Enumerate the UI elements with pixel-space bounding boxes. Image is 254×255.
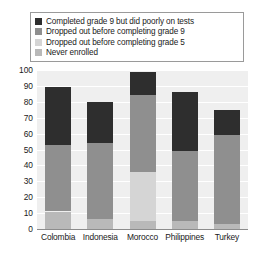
x-axis-label-colombia: Colombia xyxy=(37,233,79,242)
stacked-bar-chart: Completed grade 9 but did poorly on test… xyxy=(0,0,254,255)
bar-segment xyxy=(172,92,198,151)
legend-item[interactable]: Dropped out before completing grade 9 xyxy=(35,27,239,38)
y-axis-tick-60: 60 xyxy=(0,130,33,138)
y-axis-tick-70: 70 xyxy=(0,114,33,122)
bar-indonesia[interactable] xyxy=(87,70,113,229)
chart-legend: Completed grade 9 but did poorly on test… xyxy=(30,12,244,62)
y-axis-tick-20: 20 xyxy=(0,193,33,201)
x-axis-label-indonesia: Indonesia xyxy=(79,233,121,242)
bar-segment xyxy=(214,135,240,224)
legend-swatch-never-enrolled xyxy=(35,49,42,56)
bar-turkey[interactable] xyxy=(214,70,240,229)
bar-segment xyxy=(214,110,240,135)
x-axis-line xyxy=(37,229,248,230)
bar-segment xyxy=(130,172,156,221)
y-axis-tick-90: 90 xyxy=(0,82,33,90)
bar-segment xyxy=(172,221,198,229)
bar-segment xyxy=(45,212,71,229)
legend-item[interactable]: Completed grade 9 but did poorly on test… xyxy=(35,16,239,27)
y-axis-tick-100: 100 xyxy=(0,66,33,74)
bar-segment xyxy=(130,221,156,229)
x-axis-category-labels: ColombiaIndonesiaMoroccoPhilippinesTurke… xyxy=(37,233,248,249)
bar-segment xyxy=(130,72,156,96)
bar-segment xyxy=(87,143,113,219)
legend-item[interactable]: Dropped out before completing grade 5 xyxy=(35,37,239,48)
x-axis-label-morocco: Morocco xyxy=(121,233,163,242)
legend-swatch-dropped-before-grade-9 xyxy=(35,28,42,35)
x-axis-label-turkey: Turkey xyxy=(206,233,248,242)
bar-segment xyxy=(87,102,113,143)
y-axis-tick-30: 30 xyxy=(0,177,33,185)
y-axis-tick-50: 50 xyxy=(0,146,33,154)
plot-area xyxy=(37,70,248,229)
bar-philippines[interactable] xyxy=(172,70,198,229)
bar-segment xyxy=(45,87,71,144)
legend-item-label: Dropped out before completing grade 5 xyxy=(46,38,185,47)
y-axis-tick-0: 0 xyxy=(0,225,33,233)
y-axis-tick-80: 80 xyxy=(0,98,33,106)
legend-swatch-completed-grade-9 xyxy=(35,18,42,25)
legend-item-label: Completed grade 9 but did poorly on test… xyxy=(46,17,194,26)
y-axis-tick-40: 40 xyxy=(0,161,33,169)
bar-segment xyxy=(45,145,71,212)
legend-swatch-dropped-before-grade-5 xyxy=(35,39,42,46)
legend-item[interactable]: Never enrolled xyxy=(35,48,239,59)
x-axis-label-philippines: Philippines xyxy=(164,233,206,242)
y-axis-tick-10: 10 xyxy=(0,209,33,217)
bar-colombia[interactable] xyxy=(45,70,71,229)
legend-item-label: Dropped out before completing grade 9 xyxy=(46,27,185,36)
legend-item-label: Never enrolled xyxy=(46,48,98,57)
bar-segment xyxy=(172,151,198,221)
bar-segment xyxy=(130,95,156,171)
bar-morocco[interactable] xyxy=(130,70,156,229)
bar-segment xyxy=(87,219,113,229)
